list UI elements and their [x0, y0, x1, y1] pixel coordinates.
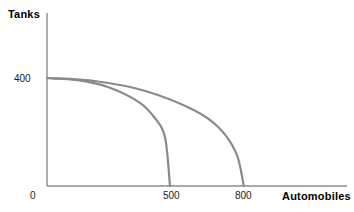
plot-area — [0, 0, 354, 212]
ppf-curve-outer — [47, 78, 244, 186]
chart-container: Tanks Automobiles 400 0 500 800 — [0, 0, 354, 212]
ppf-curve-inner — [47, 78, 170, 186]
